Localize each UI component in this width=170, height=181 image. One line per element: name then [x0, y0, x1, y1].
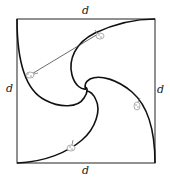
- pursuit-curve-bottom-left: [17, 91, 98, 163]
- label-bottom: d: [82, 165, 89, 176]
- bug-icon: [67, 140, 75, 151]
- label-left: d: [6, 83, 13, 94]
- pursuit-curve-top-right: [71, 19, 155, 89]
- pursuit-curve-top-left: [17, 19, 87, 106]
- bug-icon: [26, 72, 38, 78]
- sight-line: [30, 34, 98, 75]
- bug-icon: [134, 98, 140, 110]
- label-right: d: [157, 84, 164, 95]
- pursuit-diagram: [0, 0, 170, 181]
- label-top: d: [82, 5, 89, 16]
